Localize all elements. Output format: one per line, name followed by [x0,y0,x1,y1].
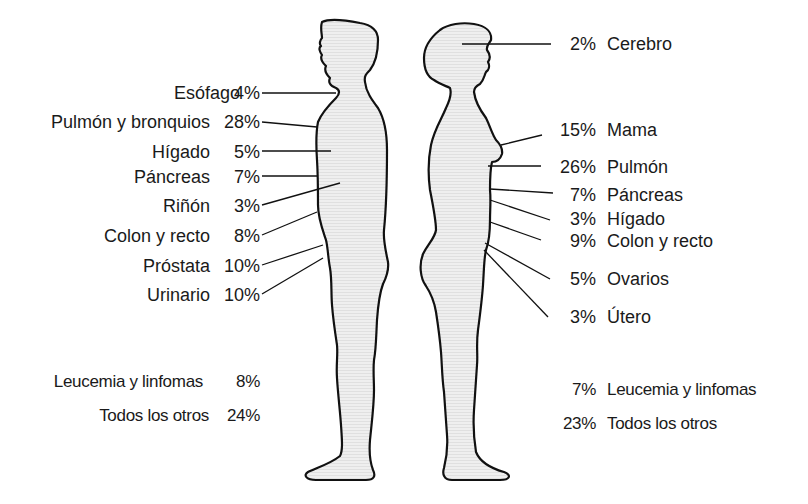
female-label-mama: Mama [607,120,657,140]
male-pct-leucemia: 8% [236,372,260,392]
female-label-pancreas: Páncreas [607,185,683,205]
female-label-leucemia: Leucemia y linfomas [607,380,756,400]
female-pct-leucemia: 7% [572,380,596,400]
female-label-ovarios: Ovarios [607,269,669,289]
female-pct-utero: 3% [570,307,596,327]
male-label-prostata: Próstata [143,256,210,276]
male-pct-rinon: 3% [234,196,260,216]
female-pct-ovarios: 5% [570,269,596,289]
female-pct-pancreas: 7% [570,185,596,205]
male-label-otros: Todos los otros [99,406,209,426]
male-pct-higado: 5% [234,142,260,162]
male-label-colon: Colon y recto [104,226,210,246]
male-pct-pulmon: 28% [224,112,260,132]
female-label-colon: Colon y recto [607,231,713,251]
male-label-leucemia: Leucemia y linfomas [54,372,203,392]
male-silhouette [306,20,389,480]
female-pct-colon: 9% [570,231,596,251]
male-pct-otros: 24% [227,406,260,426]
female-pct-higado: 3% [570,209,596,229]
male-pct-colon: 8% [234,226,260,246]
female-label-higado: Hígado [607,209,665,229]
female-pct-pulmon: 26% [560,157,596,177]
female-label-otros: Todos los otros [607,414,717,434]
female-pct-mama: 15% [560,120,596,140]
male-pct-urinario: 10% [224,285,260,305]
female-label-utero: Útero [607,307,651,327]
male-label-esofago: Esófago [174,83,240,103]
male-pct-prostata: 10% [224,256,260,276]
female-silhouette [421,23,509,480]
male-pct-pancreas: 7% [234,167,260,187]
male-label-urinario: Urinario [147,285,210,305]
female-pct-cerebro: 2% [570,34,596,54]
female-label-pulmon: Pulmón [607,157,668,177]
male-label-pancreas: Páncreas [134,167,210,187]
male-label-higado: Hígado [152,142,210,162]
female-pct-otros: 23% [563,414,596,434]
male-pct-esofago: 4% [234,83,260,103]
male-label-rinon: Riñón [163,196,210,216]
female-label-cerebro: Cerebro [607,34,672,54]
male-label-pulmon: Pulmón y bronquios [51,112,210,132]
